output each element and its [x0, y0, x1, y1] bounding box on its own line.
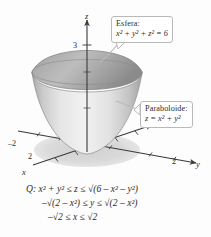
region-inequalities-block: Q: x² + y² ≤ z ≤ √(6 – x² – y²) –√(2 – x…	[26, 182, 206, 225]
callout-paraboloide-equation: z = x² + y²	[145, 114, 188, 123]
tick-label-y-2: 2	[172, 157, 176, 166]
inequality-line-2: –√(2 – x²) ≤ y ≤ √(2 – x²)	[26, 196, 206, 210]
tick-label-x-2: 2	[28, 152, 32, 161]
tick-label-z-3: 3	[73, 41, 77, 50]
callout-paraboloide-title: Paraboloide:	[145, 104, 188, 113]
axis-label-y: y	[196, 159, 200, 169]
callout-esfera-title: Esfera:	[116, 19, 168, 28]
callout-esfera-equation: x² + y² + z² = 6	[116, 29, 168, 38]
axis-label-z: z	[85, 11, 88, 21]
callout-esfera: Esfera: x² + y² + z² = 6	[111, 16, 173, 43]
callout-paraboloide: Paraboloide: z = x² + y²	[140, 101, 193, 128]
tick-label-x-negative-2: –2	[8, 139, 16, 148]
inequality-line-1: Q: x² + y² ≤ z ≤ √(6 – x² – y²)	[26, 182, 206, 196]
figure-container: Esfera: x² + y² + z² = 6 Paraboloide: z …	[0, 0, 211, 237]
axis-label-x: x	[22, 167, 26, 177]
inequality-line-3: –√2 ≤ x ≤ √2	[26, 210, 206, 224]
